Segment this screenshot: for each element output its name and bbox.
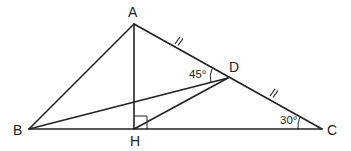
geometry-diagram: A B C D H 45° 30° [0,0,351,151]
point-label-b: B [13,122,22,138]
point-label-h: H [130,133,140,149]
segment-bd [29,78,228,129]
angle-label-acb: 30° [280,114,297,126]
segment-hd [134,78,228,129]
angle-label-adb: 45° [189,68,206,80]
segment-ab [29,24,134,129]
diagram-canvas: A B C D H 45° 30° [0,0,351,151]
point-label-c: C [327,122,337,138]
angle-arc-adb [210,69,212,82]
point-label-d: D [229,59,239,75]
point-label-a: A [128,4,138,20]
angle-arc-acb [298,117,300,129]
